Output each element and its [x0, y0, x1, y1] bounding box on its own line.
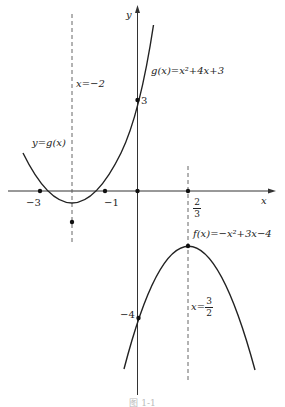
- f-axis-fraction: 32: [205, 297, 213, 318]
- f-axis-prefix: x=: [191, 301, 205, 312]
- tick-yneg4: −4: [120, 310, 135, 320]
- function-graph: [0, 0, 285, 407]
- point-origin: [135, 189, 139, 193]
- f-vertex: [186, 244, 190, 248]
- point-neg3: [38, 189, 42, 193]
- tick-neg1: −1: [104, 198, 119, 208]
- f-curve: [124, 246, 255, 370]
- point-neg1: [103, 189, 107, 193]
- tick-neg3: −3: [26, 198, 41, 208]
- f-function-label: f(x)=−x²+3x−4: [193, 229, 272, 239]
- y-axis-arrow-icon: [135, 5, 140, 13]
- g-alt-label: y=g(x): [32, 138, 66, 148]
- point-frac: [186, 189, 190, 193]
- figure-caption: 图 1-1: [0, 396, 285, 407]
- tick-y3: 3: [141, 96, 147, 106]
- tick-frac-num: 2: [194, 198, 200, 207]
- y-axis-label: y: [126, 10, 132, 20]
- tick-frac: 23: [193, 198, 201, 219]
- tick-frac-den: 3: [194, 210, 200, 219]
- g-function-label: g(x)=x²+4x+3: [151, 66, 224, 76]
- point-y3: [135, 98, 139, 102]
- point-yneg4: [136, 316, 140, 320]
- f-axis-num: 3: [206, 297, 212, 306]
- f-axis-den: 2: [206, 309, 212, 318]
- x-axis-arrow-icon: [268, 189, 276, 194]
- g-curve: [23, 25, 154, 203]
- g-vertex: [70, 220, 74, 224]
- g-axis-label: x=−2: [76, 79, 105, 89]
- f-axis-label: x=32: [191, 297, 213, 318]
- x-axis-label: x: [261, 196, 267, 206]
